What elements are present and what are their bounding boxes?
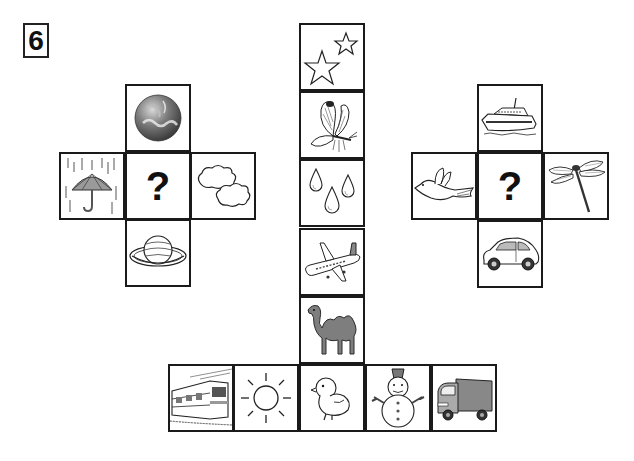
saturn-planet-icon bbox=[128, 232, 188, 274]
stars-icon bbox=[302, 27, 362, 87]
left-cross-center-question[interactable]: ? bbox=[125, 152, 191, 220]
right-cross-top-cell bbox=[477, 84, 543, 152]
puzzle-number-badge: 6 bbox=[23, 23, 49, 58]
butterfly-icon bbox=[305, 96, 359, 154]
umbrella-rain-icon bbox=[62, 156, 122, 216]
camel-icon bbox=[302, 300, 362, 360]
column-cell-5 bbox=[299, 296, 365, 364]
right-cross-center-question[interactable]: ? bbox=[477, 152, 543, 220]
dragonfly-icon bbox=[545, 156, 607, 216]
train-icon bbox=[170, 367, 232, 429]
ferry-ship-icon bbox=[480, 96, 540, 140]
bottom-row-cell-1 bbox=[168, 364, 234, 432]
bottom-row-cell-4 bbox=[365, 364, 431, 432]
column-cell-4 bbox=[299, 228, 365, 296]
car-icon bbox=[480, 234, 540, 274]
left-cross-right-cell bbox=[190, 152, 256, 220]
sun-icon bbox=[239, 371, 293, 425]
question-mark: ? bbox=[498, 166, 522, 206]
bottom-row-cell-2 bbox=[233, 364, 299, 432]
clouds-icon bbox=[194, 163, 252, 209]
water-drops-icon bbox=[304, 165, 360, 221]
column-cell-1 bbox=[299, 23, 365, 91]
right-cross-left-cell bbox=[411, 152, 477, 220]
truck-icon bbox=[434, 373, 494, 423]
column-cell-3 bbox=[299, 159, 365, 227]
snowman-icon bbox=[370, 367, 426, 429]
left-cross-left-cell bbox=[59, 152, 125, 220]
left-cross-top-cell bbox=[125, 84, 191, 152]
left-cross-bottom-cell bbox=[125, 219, 191, 287]
right-cross-bottom-cell bbox=[477, 220, 543, 288]
column-cell-2 bbox=[299, 91, 365, 159]
airplane-icon bbox=[302, 239, 362, 285]
bottom-row-cell-5 bbox=[431, 364, 497, 432]
bird-icon bbox=[413, 166, 475, 206]
chick-icon bbox=[310, 374, 354, 422]
bottom-row-cell-3 bbox=[299, 364, 365, 432]
earth-globe-icon bbox=[133, 93, 183, 143]
right-cross-right-cell bbox=[543, 152, 609, 220]
question-mark: ? bbox=[146, 166, 170, 206]
